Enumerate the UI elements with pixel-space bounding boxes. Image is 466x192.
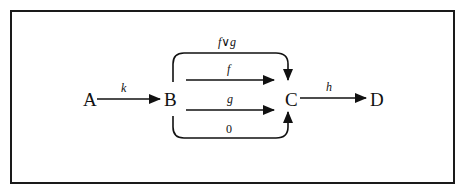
edge-label-0: 0 [226, 122, 232, 136]
edge-label-h: h [326, 80, 332, 94]
node-d: D [370, 89, 384, 110]
edge-label-f: f [227, 62, 232, 76]
node-a: A [83, 89, 97, 110]
edge-label-fvg: f∨g [218, 35, 236, 49]
node-c: C [285, 89, 298, 110]
diagram-canvas: A B C D k f∨g f g 0 h [0, 0, 466, 192]
node-b: B [164, 89, 177, 110]
edge-label-k: k [121, 81, 127, 95]
edge-b-c-fvg [173, 53, 288, 82]
edge-label-g: g [227, 92, 233, 106]
